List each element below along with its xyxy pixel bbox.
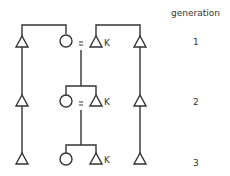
generation-label-2: 2 bbox=[193, 97, 199, 107]
male-triangle-gen1-k bbox=[90, 36, 102, 47]
male-triangle-gen3-k bbox=[90, 153, 102, 164]
sibling-bracket-gen1-right bbox=[96, 25, 140, 36]
sibling-bracket-gen1-left bbox=[22, 25, 66, 37]
k-marker-gen2: K bbox=[104, 97, 110, 107]
female-circle-gen2 bbox=[60, 95, 72, 107]
generation-label-1: 1 bbox=[193, 37, 199, 47]
male-triangle-gen3-left bbox=[16, 153, 28, 164]
sibling-bracket-gen2 bbox=[66, 86, 96, 95]
male-triangle-gen3-right bbox=[134, 153, 146, 164]
female-circle-gen3 bbox=[60, 153, 72, 165]
male-triangle-gen2-k bbox=[90, 95, 102, 106]
k-marker-gen1: K bbox=[104, 38, 110, 48]
generation-header: generation bbox=[171, 8, 220, 18]
generation-label-3: 3 bbox=[193, 158, 199, 168]
sibling-bracket-gen3 bbox=[66, 145, 96, 153]
kinship-diagram bbox=[0, 0, 230, 176]
k-marker-gen3: K bbox=[104, 155, 110, 165]
male-triangle-gen2-right bbox=[134, 95, 146, 106]
female-circle-gen1 bbox=[60, 35, 72, 47]
male-triangle-gen1-right bbox=[134, 36, 146, 47]
male-triangle-gen1-left bbox=[16, 36, 28, 47]
male-triangle-gen2-left bbox=[16, 95, 28, 106]
